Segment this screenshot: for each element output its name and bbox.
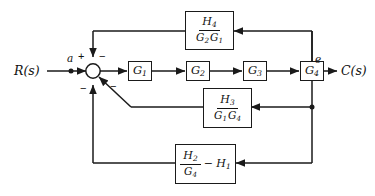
fraction-denominator: G2 G1 bbox=[193, 31, 226, 44]
fraction-h3-over-g1g4: H3 G1 G4 bbox=[211, 94, 244, 122]
input-signal-label: R(s) bbox=[14, 63, 40, 78]
block-g2-label: G2 bbox=[191, 63, 205, 78]
fraction-denominator: G1 G4 bbox=[211, 109, 244, 122]
block-g3-label: G3 bbox=[248, 63, 262, 78]
fraction-numerator: H2 bbox=[180, 150, 200, 165]
block-g1[interactable]: G1 bbox=[128, 61, 152, 81]
block-h3-over-g1g4[interactable]: H3 G1 G4 bbox=[203, 88, 252, 128]
sign-feedback-top-minus: − bbox=[99, 50, 105, 62]
block-diagram-canvas: G1 G2 G3 G4 H4 G2 G1 H3 G1 G4 H2 G4 − H1 bbox=[0, 0, 375, 196]
fraction-h4-over-g2g1: H4 G2 G1 bbox=[193, 16, 226, 44]
block-g1-label: G1 bbox=[133, 63, 147, 78]
summing-junction-circle bbox=[86, 64, 100, 78]
node-dot-a bbox=[69, 69, 74, 74]
block-h2-over-g4-minus-h1[interactable]: H2 G4 − H1 bbox=[175, 144, 236, 184]
block-g2[interactable]: G2 bbox=[186, 61, 210, 81]
sign-input-plus: + bbox=[78, 50, 84, 62]
fraction-numerator: H4 bbox=[199, 16, 219, 31]
block-g4-label: G4 bbox=[305, 63, 319, 78]
expression-tail: − H1 bbox=[204, 157, 231, 171]
block-h4-over-g2g1[interactable]: H4 G2 G1 bbox=[185, 11, 234, 50]
node-dot-h3-tap bbox=[310, 105, 315, 110]
fraction-denominator: G4 bbox=[181, 165, 200, 178]
node-label-a: a bbox=[67, 52, 73, 64]
node-label-e: e bbox=[315, 53, 321, 65]
fraction-h2-over-g4: H2 G4 bbox=[180, 150, 200, 178]
output-signal-label: C(s) bbox=[341, 63, 367, 78]
block-g3[interactable]: G3 bbox=[243, 61, 267, 81]
sign-feedback-diagonal-minus: − bbox=[110, 80, 116, 92]
fraction-numerator: H3 bbox=[217, 94, 237, 109]
sign-feedback-bottom-minus: − bbox=[80, 82, 86, 94]
expression-h2-over-g4-minus-h1: H2 G4 − H1 bbox=[180, 150, 230, 178]
